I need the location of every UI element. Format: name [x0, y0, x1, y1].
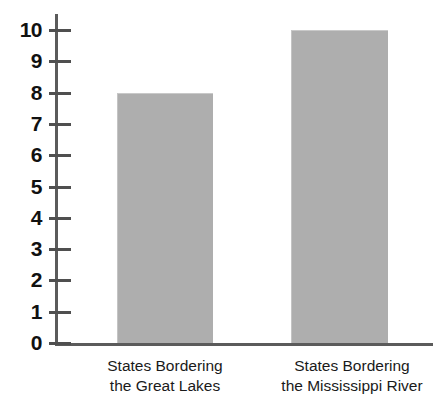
y-axis-label-3: 3 [0, 238, 42, 259]
category-label-1-line-1: States Bordering [78, 356, 252, 376]
y-axis-tick-10 [49, 29, 71, 32]
category-label-2: States Borderingthe Mississippi River [258, 356, 446, 396]
y-axis-label-2: 2 [0, 269, 42, 290]
y-axis-label-1: 1 [0, 301, 42, 322]
y-axis-tick-5 [49, 186, 71, 189]
y-axis-label-10: 10 [0, 19, 42, 40]
category-label-1: States Borderingthe Great Lakes [78, 356, 252, 396]
bar-chart: 012345678910 States Borderingthe Great L… [0, 0, 446, 403]
y-axis-label-6: 6 [0, 144, 42, 165]
y-axis-tick-6 [49, 154, 71, 157]
y-axis-tick-2 [49, 279, 71, 282]
y-axis-tick-4 [49, 217, 71, 220]
y-axis-label-0: 0 [0, 332, 42, 353]
y-axis-tick-9 [49, 60, 71, 63]
y-axis-tick-8 [49, 92, 71, 95]
y-axis-label-8: 8 [0, 82, 42, 103]
y-axis-label-4: 4 [0, 207, 42, 228]
y-axis-label-5: 5 [0, 176, 42, 197]
y-axis-tick-3 [49, 248, 71, 251]
y-axis-label-9: 9 [0, 50, 42, 71]
y-axis-label-7: 7 [0, 113, 42, 134]
x-axis-line [55, 343, 433, 346]
y-axis-line [55, 14, 58, 346]
category-label-2-line-1: States Bordering [258, 356, 446, 376]
category-label-2-line-2: the Mississippi River [258, 376, 446, 396]
category-label-1-line-2: the Great Lakes [78, 376, 252, 396]
y-axis-tick-0 [49, 342, 71, 345]
bar-1 [117, 93, 213, 343]
bar-2 [291, 30, 388, 343]
y-axis-tick-1 [49, 311, 71, 314]
y-axis-tick-7 [49, 123, 71, 126]
